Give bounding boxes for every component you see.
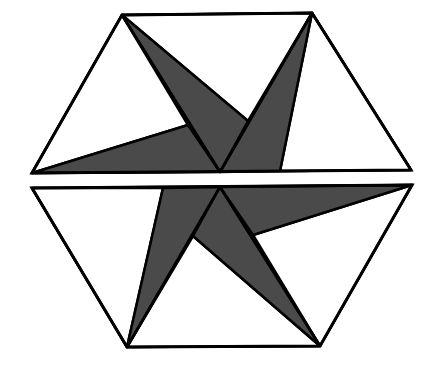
hexagon-pinwheel-figure (0, 0, 435, 375)
lower-half-trapezoid (32, 185, 412, 347)
diagram-canvas: Hexagon dissection pinwheel (0, 0, 435, 375)
upper-half-trapezoid (32, 13, 411, 173)
